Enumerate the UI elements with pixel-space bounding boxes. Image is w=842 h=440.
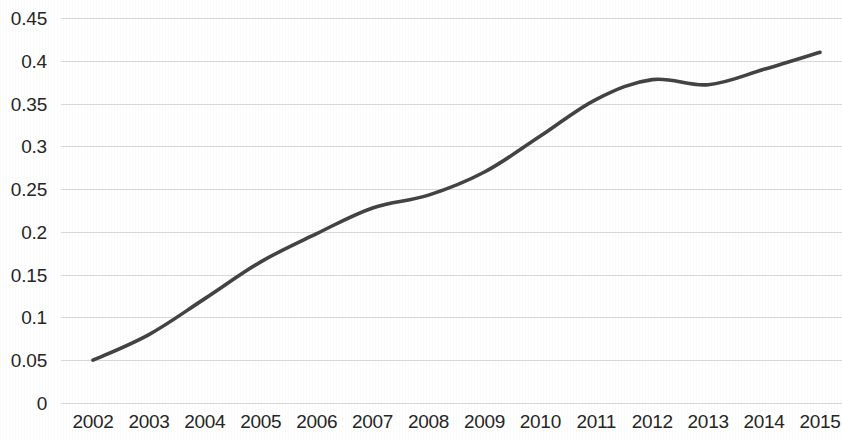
y-tick-label: 0.3 [0, 137, 47, 156]
line-chart: 00.050.10.150.20.250.30.350.40.45 200220… [0, 0, 842, 440]
gridline [61, 189, 842, 190]
gridline [61, 403, 842, 404]
y-tick-label: 0.05 [0, 351, 47, 370]
gridline [61, 360, 842, 361]
gridline [61, 232, 842, 233]
y-tick-label: 0.15 [0, 266, 47, 285]
y-tick-label: 0.1 [0, 308, 47, 327]
x-tick-label: 2007 [341, 412, 405, 431]
x-tick-label: 2003 [117, 412, 181, 431]
gridline [61, 275, 842, 276]
y-tick-label: 0.2 [0, 223, 47, 242]
x-tick-label: 2010 [508, 412, 572, 431]
gridline [61, 146, 842, 147]
plot-area [61, 18, 842, 403]
gridline [61, 18, 842, 19]
x-tick-label: 2008 [397, 412, 461, 431]
gridline [61, 317, 842, 318]
x-tick-label: 2011 [564, 412, 628, 431]
y-tick-label: 0.45 [0, 9, 47, 28]
y-tick-label: 0.4 [0, 52, 47, 71]
x-tick-label: 2009 [452, 412, 516, 431]
y-tick-label: 0 [0, 394, 47, 413]
gridline [61, 61, 842, 62]
y-tick-label: 0.35 [0, 95, 47, 114]
x-tick-label: 2015 [788, 412, 842, 431]
y-tick-label: 0.25 [0, 180, 47, 199]
x-tick-label: 2006 [285, 412, 349, 431]
x-tick-label: 2013 [676, 412, 740, 431]
x-tick-label: 2012 [620, 412, 684, 431]
x-tick-label: 2002 [61, 412, 125, 431]
x-tick-label: 2014 [732, 412, 796, 431]
x-tick-label: 2004 [173, 412, 237, 431]
x-tick-label: 2005 [229, 412, 293, 431]
gridline [61, 104, 842, 105]
